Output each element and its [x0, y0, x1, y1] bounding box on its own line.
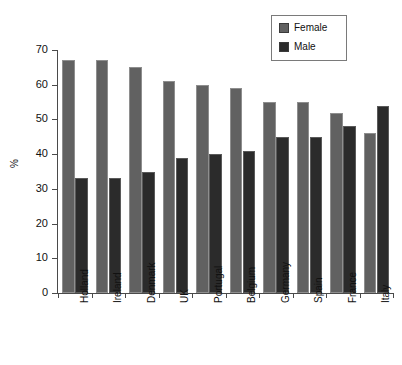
x-axis-tick-mark [360, 293, 361, 298]
y-axis-tick-label: 50 [8, 113, 48, 124]
x-axis-tick-mark [326, 293, 327, 298]
bar-france-female [330, 113, 343, 294]
y-axis-tick-label: 10 [8, 252, 48, 263]
y-axis-tick-label: 0 [8, 287, 48, 298]
bar-chart: % 010203040506070 HollandIrelandDenmarkU… [0, 0, 402, 365]
y-axis-tick-label: 30 [8, 183, 48, 194]
bar-italy-female [364, 133, 377, 293]
x-axis-label-belgium: Belgium [247, 267, 257, 303]
bar-germany-female [263, 102, 276, 293]
legend-label-male: Male [294, 42, 316, 52]
y-axis-title: % [10, 159, 20, 168]
x-axis-tick-mark [293, 293, 294, 298]
x-axis-label-italy: Italy [381, 285, 391, 303]
bar-uk-female [163, 81, 176, 293]
bar-france-male [343, 126, 356, 293]
x-axis-tick-mark [125, 293, 126, 298]
x-axis-tick-mark [92, 293, 93, 298]
bar-holland-female [62, 60, 75, 293]
x-axis-label-spain: Spain [314, 277, 324, 303]
plot-area [58, 50, 393, 293]
bar-portugal-female [196, 85, 209, 293]
bar-uk-male [176, 158, 189, 293]
x-axis-label-portugal: Portugal [214, 266, 224, 303]
x-axis-label-holland: Holland [80, 269, 90, 303]
x-axis-tick-mark [58, 293, 59, 298]
x-axis-label-france: France [348, 272, 358, 303]
legend-entry-male: Male [279, 40, 316, 54]
y-axis-tick-label: 20 [8, 218, 48, 229]
bar-denmark-female [129, 67, 142, 293]
x-axis-tick-mark [393, 293, 394, 298]
y-axis-tick-label: 70 [8, 44, 48, 55]
legend-label-female: Female [294, 23, 327, 33]
x-axis-label-uk: UK [180, 289, 190, 303]
bar-belgium-female [230, 88, 243, 293]
legend-entry-female: Female [279, 21, 327, 35]
x-axis-tick-mark [192, 293, 193, 298]
x-axis-label-denmark: Denmark [147, 262, 157, 303]
x-axis-label-germany: Germany [281, 262, 291, 303]
bar-spain-male [310, 137, 323, 293]
x-axis-tick-mark [259, 293, 260, 298]
y-axis-tick-label: 60 [8, 79, 48, 90]
legend-swatch-female [279, 23, 289, 33]
y-axis-tick-label: 40 [8, 148, 48, 159]
legend: Female Male [271, 15, 347, 61]
legend-swatch-male [279, 42, 289, 52]
bar-italy-male [377, 106, 390, 293]
x-axis-tick-mark [226, 293, 227, 298]
bar-ireland-female [96, 60, 109, 293]
x-axis-label-ireland: Ireland [113, 272, 123, 303]
x-axis-tick-mark [159, 293, 160, 298]
bar-spain-female [297, 102, 310, 293]
